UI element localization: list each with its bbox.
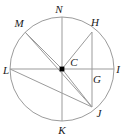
label-point-J: J	[97, 108, 102, 119]
segment-chord-LJ	[10, 69, 92, 107]
label-point-M: M	[14, 18, 23, 29]
label-point-N: N	[55, 4, 62, 15]
label-point-K: K	[58, 125, 65, 136]
label-point-I: I	[116, 64, 120, 75]
label-point-G: G	[93, 74, 101, 85]
center-point-dot	[60, 67, 65, 72]
circle-geometry-figure: N M H L I G J K C	[0, 0, 123, 138]
label-point-L: L	[3, 65, 9, 76]
label-point-C: C	[70, 57, 77, 68]
label-point-H: H	[91, 17, 99, 28]
